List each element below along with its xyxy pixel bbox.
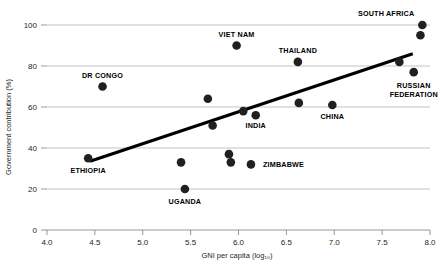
- data-point[interactable]: [247, 160, 256, 169]
- data-point-label: CHINA: [320, 112, 344, 121]
- data-point[interactable]: [328, 101, 337, 110]
- data-point-label: ETHIOPIA: [70, 166, 106, 175]
- data-point-label: ZIMBABWE: [263, 160, 304, 169]
- data-point[interactable]: [227, 158, 236, 167]
- data-point-label: DR CONGO: [82, 71, 123, 80]
- data-point-label: SOUTH AFRICA: [358, 9, 414, 18]
- data-point[interactable]: [295, 99, 304, 108]
- x-axis-ticks: 4.04.55.05.56.06.57.07.58.0: [41, 230, 436, 247]
- data-point[interactable]: [98, 82, 107, 91]
- y-axis-title: Government contribution (%): [4, 79, 13, 175]
- trend-line: [90, 54, 413, 162]
- x-tick-label: 6.5: [281, 238, 293, 247]
- data-point[interactable]: [225, 150, 234, 159]
- data-point[interactable]: [181, 185, 190, 194]
- x-axis-title: GNI per capita (log₁₀): [201, 251, 273, 260]
- data-point[interactable]: [204, 95, 213, 104]
- x-tick-label: 6.0: [233, 238, 245, 247]
- x-tick-label: 7.5: [377, 238, 389, 247]
- trendline: [90, 54, 413, 162]
- data-point[interactable]: [251, 111, 260, 120]
- plot-canvas: 020406080100 4.04.55.05.56.06.57.07.58.0…: [0, 0, 446, 268]
- x-tick-label: 4.0: [41, 238, 53, 247]
- data-point[interactable]: [232, 41, 241, 50]
- data-point-label: VIET NAM: [219, 30, 255, 39]
- data-point[interactable]: [294, 58, 303, 67]
- data-point-label: RUSSIAN: [397, 81, 431, 90]
- y-tick-label: 0: [33, 226, 38, 235]
- x-tick-label: 4.5: [89, 238, 101, 247]
- scatter-chart: 020406080100 4.04.55.05.56.06.57.07.58.0…: [0, 0, 446, 268]
- data-point[interactable]: [418, 21, 427, 30]
- data-point-label: THAILAND: [279, 46, 317, 55]
- x-tick-label: 5.5: [185, 238, 197, 247]
- x-tick-label: 8.0: [424, 238, 436, 247]
- y-tick-label: 80: [28, 62, 37, 71]
- data-point[interactable]: [84, 154, 93, 163]
- x-tick-label: 5.0: [137, 238, 149, 247]
- y-tick-label: 60: [28, 103, 37, 112]
- data-point[interactable]: [208, 121, 217, 130]
- data-point[interactable]: [239, 107, 248, 116]
- data-point[interactable]: [409, 68, 418, 77]
- data-point[interactable]: [395, 58, 404, 67]
- y-tick-label: 100: [24, 21, 38, 30]
- data-point-label: UGANDA: [169, 197, 202, 206]
- data-point-label: INDIA: [245, 121, 266, 130]
- y-tick-label: 20: [28, 185, 37, 194]
- y-axis-ticks: 020406080100: [24, 21, 47, 235]
- data-point[interactable]: [177, 158, 186, 167]
- gridlines: [47, 25, 430, 189]
- x-tick-label: 7.0: [329, 238, 341, 247]
- data-point-label: FEDERATION: [390, 90, 438, 99]
- data-point[interactable]: [416, 31, 425, 40]
- y-tick-label: 40: [28, 144, 37, 153]
